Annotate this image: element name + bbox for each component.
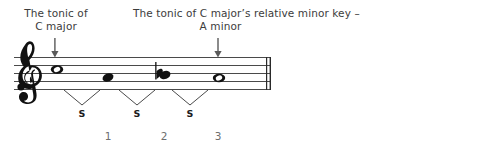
down-arrow-icon-right	[214, 38, 221, 58]
music-notation-figure: The tonic of C major The tonic of C majo…	[0, 0, 491, 166]
note-1-whole	[51, 65, 63, 73]
v-bracket-icon-3	[172, 90, 208, 105]
staff-lines	[14, 58, 271, 90]
v-bracket-icon-1	[64, 90, 100, 105]
treble-clef	[17, 41, 42, 104]
notation-canvas	[0, 0, 491, 166]
note-4-whole	[213, 74, 225, 82]
v-bracket-icon-2	[119, 90, 155, 105]
down-arrow-icon-left	[51, 38, 58, 58]
